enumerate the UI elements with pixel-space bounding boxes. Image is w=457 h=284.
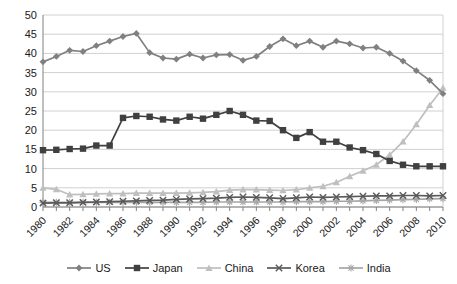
marker-square [186,114,192,120]
marker-square [173,117,179,123]
x-axis-tick-label: 2010 [423,214,448,239]
marker-square [200,115,206,121]
y-axis-tick-label: 15 [25,143,37,155]
marker-diamond [306,38,313,45]
marker-square [80,145,86,151]
series-line-china [43,88,443,195]
chart-legend: USJapanChinaKoreaIndia [0,252,457,284]
x-axis-tick-label: 1986 [103,214,128,239]
y-axis-tick-label: 10 [25,163,37,175]
legend-marker-x-icon [266,261,292,275]
marker-diamond [76,265,83,272]
marker-square [226,108,232,114]
x-axis-tick-label: 1998 [263,214,288,239]
marker-square [40,147,46,153]
x-axis-tick-label: 2004 [343,214,368,239]
marker-diamond [93,42,100,49]
marker-square [280,127,286,133]
marker-diamond [320,44,327,51]
series-japan [40,108,446,170]
marker-diamond [213,52,220,59]
marker-square [346,144,352,150]
marker-diamond [53,53,60,60]
marker-diamond [66,47,73,54]
marker-star [119,199,126,206]
marker-square [160,116,166,122]
marker-diamond [173,56,180,63]
marker-square [440,163,446,169]
marker-star [199,199,206,206]
plot-area: 0510152025303540455019801982198419861988… [0,0,457,250]
x-axis-tick-label: 2000 [290,214,315,239]
x-axis-tick-label: 2006 [370,214,395,239]
marker-square [240,112,246,118]
legend-label: China [225,263,254,274]
marker-diamond [200,55,207,62]
legend-item-japan[interactable]: Japan [124,261,183,275]
legend-marker-star-icon [338,261,364,275]
marker-square [213,112,219,118]
y-axis-tick-label: 30 [25,86,37,98]
marker-square [373,151,379,157]
marker-star [213,198,220,205]
marker-diamond [360,45,367,52]
marker-triangle [439,84,446,90]
marker-diamond [280,35,287,42]
marker-square [413,163,419,169]
y-axis-tick-label: 25 [25,105,37,117]
y-axis-tick-label: 50 [25,9,37,21]
y-axis-tick-label: 40 [25,47,37,59]
legend-item-china[interactable]: China [196,261,254,275]
marker-diamond [106,38,113,45]
y-axis-tick-label: 35 [25,67,37,79]
series-china [39,84,446,197]
marker-diamond [373,44,380,51]
y-axis-tick-label: 45 [25,28,37,40]
y-axis-tick-label: 0 [31,201,37,213]
marker-diamond [186,51,193,58]
legend-marker-triangle-icon [196,261,222,275]
marker-square [293,135,299,141]
marker-square [120,115,126,121]
marker-square [253,117,259,123]
marker-square [53,147,59,153]
marker-square [386,158,392,164]
legend-label: US [95,263,110,274]
marker-square [266,118,272,124]
marker-square [146,114,152,120]
y-axis-tick-label: 20 [25,124,37,136]
marker-square [93,142,99,148]
chart-svg: 0510152025303540455019801982198419861988… [0,0,457,250]
x-axis-tick-label: 1990 [157,214,182,239]
marker-diamond [346,40,353,47]
marker-square [320,139,326,145]
series-us [40,30,447,97]
legend-label: India [367,263,391,274]
marker-diamond [386,50,393,57]
series-line-japan [43,111,443,166]
legend-item-korea[interactable]: Korea [266,261,324,275]
legend-item-us[interactable]: US [66,261,110,275]
marker-square [306,129,312,135]
x-axis-tick-label: 1988 [130,214,155,239]
marker-diamond [226,51,233,58]
legend-item-india[interactable]: India [338,261,391,275]
marker-diamond [160,55,167,62]
marker-square [360,147,366,153]
marker-diamond [293,42,300,49]
chart-container: 0510152025303540455019801982198419861988… [0,0,457,284]
marker-diamond [240,57,247,64]
legend-marker-square-icon [124,261,150,275]
x-axis-tick-label: 1992 [183,214,208,239]
marker-square [333,139,339,145]
legend-label: Japan [153,263,183,274]
x-axis-tick-label: 1994 [210,214,235,239]
marker-square [426,163,432,169]
y-axis-tick-label: 5 [31,182,37,194]
x-axis-tick-label: 1984 [77,214,102,239]
x-axis-tick-label: 1996 [237,214,262,239]
marker-square [133,113,139,119]
legend-label: Korea [295,263,324,274]
x-axis-tick-label: 2002 [317,214,342,239]
marker-diamond [40,58,47,65]
